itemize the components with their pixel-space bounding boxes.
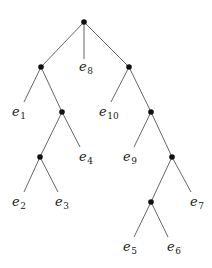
edge-L3-e3: [40, 157, 58, 192]
edge-R4-e5: [134, 202, 151, 237]
edge-R4-e6: [151, 202, 168, 237]
edge-R3-e7: [172, 157, 191, 192]
edge-L3-e2: [24, 157, 40, 192]
internal-node-R1: [126, 64, 132, 70]
leaf-label-e2: e2: [12, 194, 26, 211]
leaf-label-e6: e6: [167, 239, 181, 256]
leaf-label-e10: e10: [99, 104, 119, 121]
edge-R2-e9: [134, 112, 151, 147]
internal-node-root: [81, 19, 87, 25]
leaf-label-e7: e7: [190, 194, 204, 211]
tree-edges: [24, 22, 191, 237]
leaf-label-e1: e1: [12, 104, 26, 121]
leaf-label-e8: e8: [79, 59, 93, 76]
tree-diagram: e1e2e3e4e5e6e7e8e9e10: [0, 0, 212, 268]
leaf-label-e4: e4: [79, 149, 93, 166]
internal-node-L3: [37, 154, 43, 160]
edge-root-R1: [84, 22, 129, 67]
edge-R1-e10: [111, 67, 129, 102]
internal-node-R4: [148, 199, 154, 205]
leaf-label-e9: e9: [123, 149, 137, 166]
edge-L1-L2: [41, 67, 62, 112]
leaf-label-e5: e5: [123, 239, 137, 256]
internal-node-R3: [169, 154, 175, 160]
internal-node-R2: [148, 109, 154, 115]
edge-root-L1: [41, 22, 84, 67]
internal-node-L2: [59, 109, 65, 115]
edge-L2-e4: [62, 112, 80, 147]
edge-R3-R4: [151, 157, 172, 202]
edge-R1-R2: [129, 67, 151, 112]
edge-R2-R3: [151, 112, 172, 157]
edge-L1-e1: [24, 67, 41, 102]
leaf-label-e3: e3: [55, 194, 69, 211]
edge-L2-L3: [40, 112, 62, 157]
internal-node-L1: [38, 64, 44, 70]
